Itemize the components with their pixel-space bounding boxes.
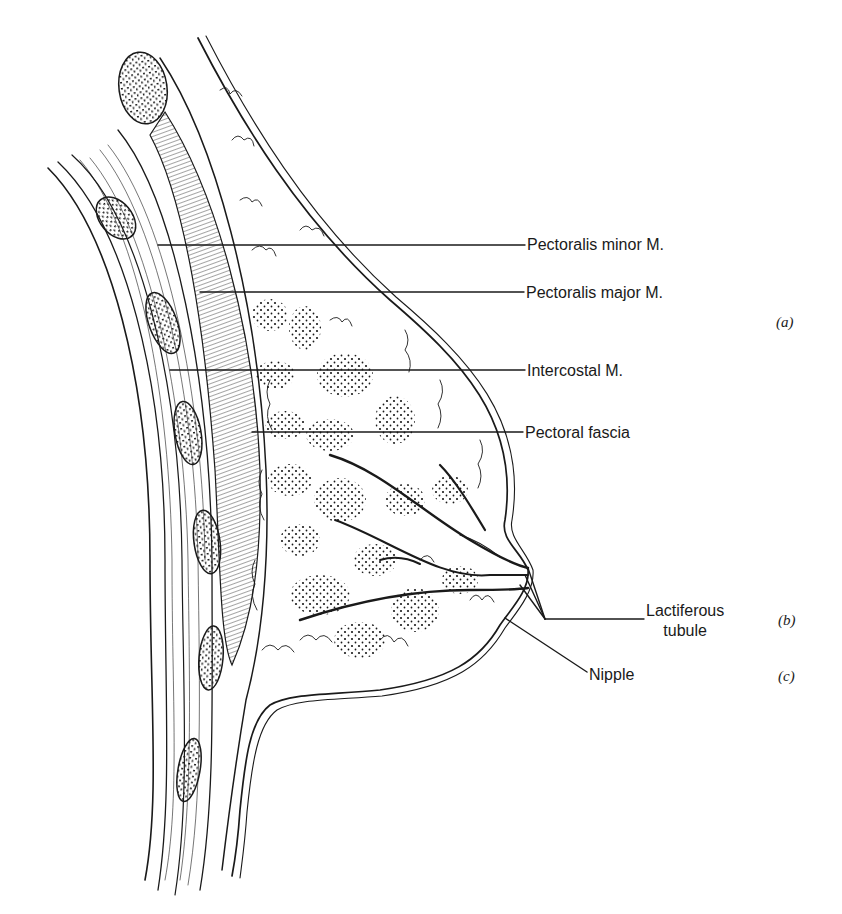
tag-c: (c): [778, 668, 795, 685]
label-nipple: Nipple: [589, 666, 634, 684]
label-pectoral-fascia: Pectoral fascia: [525, 424, 630, 442]
label-lactiferous-tubule: Lactiferous tubule: [646, 601, 724, 641]
label-pectoralis-minor: Pectoralis minor M.: [527, 236, 664, 254]
label-lactiferous-line1: Lactiferous: [646, 601, 724, 621]
glandular-lobules: [252, 299, 478, 658]
breast-anatomy-illustration: [0, 0, 842, 914]
tag-b: (b): [778, 612, 796, 629]
label-intercostal: Intercostal M.: [527, 362, 623, 380]
tag-a: (a): [776, 314, 794, 331]
label-lactiferous-line2: tubule: [646, 621, 724, 641]
label-pectoralis-major: Pectoralis major M.: [526, 284, 663, 302]
